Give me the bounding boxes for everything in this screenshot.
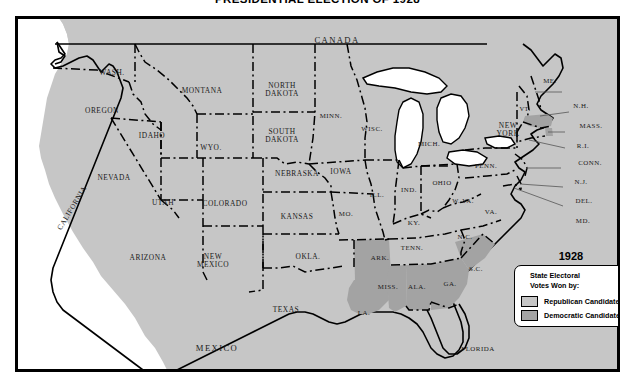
legend-swatch-republican — [521, 296, 538, 307]
election-map-page: PRESIDENTIAL ELECTION OF 1928 .rep { fil… — [0, 0, 635, 382]
state-mississippi — [387, 265, 407, 312]
legend-label-democratic: Democratic Candidate — [544, 311, 620, 320]
legend-entry-republican: Republican Candidate — [521, 296, 620, 307]
legend-heading-line-1: State Electoral — [530, 271, 620, 281]
legend-swatch-democratic — [521, 310, 538, 321]
legend-label-republican: Republican Candidate — [544, 297, 619, 306]
map-frame: .rep { fill: #c6c6c6; } .dem { fill: #a3… — [15, 16, 620, 372]
legend-heading: State Electoral Votes Won by: — [530, 271, 620, 292]
map-legend: 1928 State Electoral Votes Won by: Repub… — [514, 250, 620, 327]
page-title: PRESIDENTIAL ELECTION OF 1928 — [0, 0, 635, 5]
legend-year: 1928 — [514, 250, 620, 262]
state-arkansas — [354, 239, 391, 280]
state-alabama — [406, 264, 431, 310]
legend-entry-democratic: Democratic Candidate — [521, 310, 620, 321]
legend-box: State Electoral Votes Won by: Republican… — [514, 265, 620, 327]
legend-heading-line-2: Votes Won by: — [530, 281, 620, 291]
